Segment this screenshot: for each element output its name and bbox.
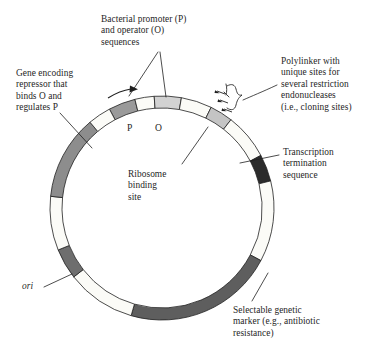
label-ribosome-binding-site: Ribosome binding site: [128, 169, 208, 203]
plasmid-segment-repressor-gene: [51, 122, 98, 197]
polylinker-arrows: [215, 90, 233, 112]
plasmid-segment-backbone-left: [50, 196, 69, 250]
plasmid-segment-operator: [154, 96, 181, 110]
plasmid-segment-transcription-termination: [250, 155, 270, 183]
plasmid-segment-backbone-lower-left: [74, 270, 135, 316]
leader-marker: [252, 273, 268, 301]
plasmid-segment-spacer-p-o: [135, 96, 155, 111]
leader-ribosome: [182, 127, 208, 164]
leader-ori: [44, 274, 72, 287]
label-repressor-gene: Gene encoding repressor that binds O and…: [16, 68, 116, 114]
polylinker-brace: [224, 84, 242, 110]
leader-polylinker: [243, 85, 277, 100]
plasmid-segment-backbone-right: [250, 181, 274, 261]
label-bacterial-promoter-operator: Bacterial promoter (P) and operator (O) …: [101, 14, 219, 48]
leader-operator: [160, 52, 166, 97]
plasmid-segment-ori: [58, 245, 83, 276]
plasmid-segment-polylinker-cloning-sites: [224, 120, 261, 161]
label-promoter-tick: P: [127, 122, 132, 133]
label-polylinker: Polylinker with unique sites for several…: [281, 56, 377, 113]
label-transcription-termination: Transcription termination sequence: [283, 147, 375, 181]
label-operator-tick: O: [155, 122, 162, 133]
label-ori: ori: [22, 281, 33, 292]
label-selectable-marker: Selectable genetic marker (e.g., antibio…: [233, 305, 375, 339]
plasmid-segment-backbone-upper-right: [179, 98, 211, 118]
